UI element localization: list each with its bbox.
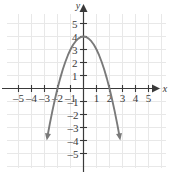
parabola-right-arrowhead: [116, 133, 122, 140]
y-tick-label: –1: [67, 96, 79, 108]
y-axis-label: y: [75, 0, 81, 11]
y-tick-label: –3: [67, 122, 80, 134]
y-tick-label: –4: [67, 135, 80, 147]
axes: [2, 4, 160, 172]
y-tick-label: –5: [67, 148, 80, 160]
y-tick-label: 2: [72, 57, 78, 69]
x-axis-label: x: [162, 83, 168, 94]
y-tick-label: 5: [72, 18, 78, 30]
x-tick-label: –5: [12, 92, 25, 104]
y-tick-label: 1: [72, 70, 78, 82]
coordinate-plane-figure: –5–4–3–2–11234554321–1–2–3–4–5xy: [0, 0, 172, 178]
parabola-left-arrowhead: [45, 133, 51, 140]
x-tick-label: 3: [120, 92, 126, 104]
x-tick-label: –3: [38, 92, 51, 104]
y-tick-label: –2: [67, 109, 79, 121]
x-tick-label: 4: [133, 92, 139, 104]
graph-canvas: –5–4–3–2–11234554321–1–2–3–4–5xy: [0, 0, 172, 178]
x-tick-label: 1: [94, 92, 100, 104]
x-tick-label: 5: [146, 92, 152, 104]
y-axis-arrowhead: [80, 4, 88, 12]
x-axis-arrowhead: [152, 85, 160, 93]
x-tick-label: –4: [25, 92, 38, 104]
